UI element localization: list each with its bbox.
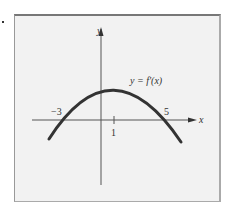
root-left-label: −3 — [51, 106, 62, 117]
y-axis-label: y — [96, 25, 102, 36]
curve-label: y = f'(x) — [129, 75, 163, 87]
chart-svg: y x y = f'(x) −3 1 5 — [0, 0, 229, 215]
tick-one-label: 1 — [111, 127, 116, 138]
x-axis-label: x — [198, 114, 204, 125]
x-axis-arrow-icon — [188, 118, 197, 123]
root-right-label: 5 — [164, 106, 169, 117]
